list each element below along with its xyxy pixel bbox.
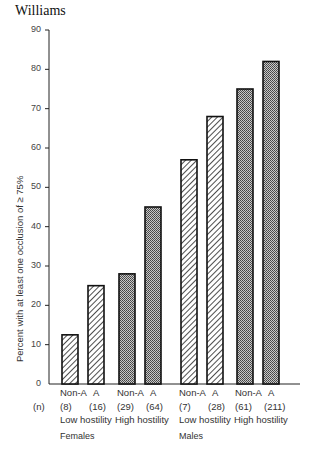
y-tick-label: 70 (21, 103, 41, 113)
bar-n-label: (61) (235, 401, 252, 412)
bar-n-label: (8) (60, 401, 72, 412)
bar (181, 160, 197, 384)
bar (88, 286, 104, 384)
bar-category-label: A (212, 387, 218, 398)
bar-n-label: (29) (117, 401, 134, 412)
bar-category-label: Non-A (117, 387, 144, 398)
bar-n-label: (28) (208, 401, 225, 412)
hostility-group-label: Low hostility (60, 414, 112, 425)
chart-axes (45, 30, 300, 384)
bar (263, 61, 279, 384)
y-tick-label: 90 (21, 24, 41, 34)
bar-category-label: A (268, 387, 274, 398)
bar-n-label: (211) (264, 401, 285, 412)
sex-group-label: Males (179, 431, 203, 441)
bar-category-label: Non-A (179, 387, 206, 398)
bar-category-label: Non-A (60, 387, 87, 398)
bar (207, 117, 223, 384)
n-row-label: (n) (33, 401, 45, 412)
bar-n-label: (7) (179, 401, 191, 412)
chart-bars (62, 61, 279, 384)
bar-n-label: (16) (89, 401, 106, 412)
hostility-group-label: High hostility (115, 414, 169, 425)
y-axis-label: Percent with at least one occlusion of ≥… (14, 176, 25, 362)
y-tick-label: 0 (21, 378, 41, 388)
bar-category-label: A (93, 387, 99, 398)
bar-chart (0, 0, 317, 454)
bar (237, 89, 253, 384)
bar (119, 274, 135, 384)
bar-category-label: A (150, 387, 156, 398)
sex-group-label: Females (60, 431, 95, 441)
y-tick-label: 60 (21, 142, 41, 152)
bar-category-label: Non-A (235, 387, 262, 398)
bar (62, 335, 78, 384)
bar (145, 207, 161, 384)
hostility-group-label: High hostility (234, 414, 288, 425)
hostility-group-label: Low hostility (179, 414, 231, 425)
y-tick-label: 80 (21, 63, 41, 73)
bar-n-label: (64) (146, 401, 163, 412)
